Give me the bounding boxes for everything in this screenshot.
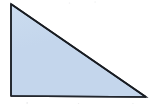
horizontal-leg-edge [11, 96, 146, 97]
triangle-diagram-svg [0, 0, 151, 104]
figure-canvas [0, 0, 151, 104]
